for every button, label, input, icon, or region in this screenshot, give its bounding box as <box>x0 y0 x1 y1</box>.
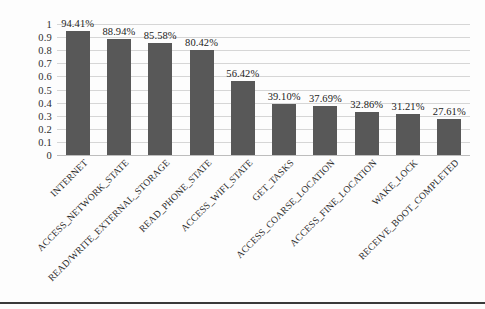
bar[interactable] <box>313 106 337 155</box>
bar-slot: 27.61% <box>429 24 470 155</box>
x-category-label: READ_PHONE_STATE <box>136 157 213 234</box>
bar-slot: 94.41% <box>57 24 98 155</box>
bar-value-label: 32.86% <box>350 99 383 110</box>
bar-slot: 37.69% <box>305 24 346 155</box>
bar-value-label: 27.61% <box>433 106 466 117</box>
y-tick-label: 0.1 <box>38 136 52 147</box>
bar-value-label: 85.58% <box>144 30 177 41</box>
y-tick-label: 1 <box>47 19 52 30</box>
bar-value-label: 37.69% <box>309 93 342 104</box>
bar-value-label: 80.42% <box>185 37 218 48</box>
bar-slot: 80.42% <box>181 24 222 155</box>
plot-area: 00.10.20.30.40.50.60.70.80.91 94.41%88.9… <box>57 24 470 155</box>
bar-value-label: 94.41% <box>61 18 94 29</box>
bar-slot: 31.21% <box>387 24 428 155</box>
x-category-label: ACCESS_FINE_LOCATION <box>287 157 378 248</box>
bar-value-label: 39.10% <box>268 91 301 102</box>
y-tick-label: 0 <box>47 150 52 161</box>
bar-value-label: 31.21% <box>392 101 425 112</box>
bar[interactable] <box>66 31 90 155</box>
bar-slot: 88.94% <box>98 24 139 155</box>
bar-slot: 32.86% <box>346 24 387 155</box>
y-tick-label: 0.4 <box>38 97 52 108</box>
y-tick-label: 0.6 <box>38 71 52 82</box>
x-category-label: INTERNET <box>48 157 90 199</box>
bar-value-label: 88.94% <box>102 26 135 37</box>
y-tick-label: 0.7 <box>38 58 52 69</box>
y-tick-label: 0.2 <box>38 123 52 134</box>
bar[interactable] <box>437 119 461 155</box>
bar-slot: 39.10% <box>264 24 305 155</box>
bar[interactable] <box>355 112 379 155</box>
bar[interactable] <box>231 81 255 155</box>
bar[interactable] <box>396 114 420 155</box>
gridline <box>57 155 470 156</box>
bar-chart-figure: 00.10.20.30.40.50.60.70.80.91 94.41%88.9… <box>0 0 485 309</box>
bottom-divider <box>0 302 485 304</box>
bar[interactable] <box>107 39 131 156</box>
bar-slot: 56.42% <box>222 24 263 155</box>
x-category-label: ACCESS_WIFI_STATE <box>178 157 255 234</box>
bar[interactable] <box>148 43 172 155</box>
bar-slot: 85.58% <box>140 24 181 155</box>
y-tick-label: 0.3 <box>38 110 52 121</box>
bar[interactable] <box>272 104 296 155</box>
y-tick-label: 0.9 <box>38 32 52 43</box>
y-tick-label: 0.8 <box>38 45 52 56</box>
bar[interactable] <box>190 50 214 155</box>
y-tick-label: 0.5 <box>38 84 52 95</box>
x-axis-category-labels: INTERNETACCESS_NETWORK_STATEREAD/WRITE_E… <box>57 157 470 302</box>
bar-value-label: 56.42% <box>226 68 259 79</box>
